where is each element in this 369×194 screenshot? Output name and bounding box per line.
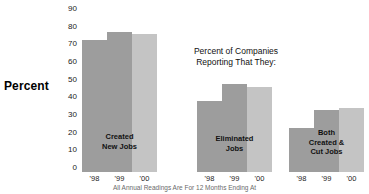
- x-tick-label: '99: [222, 174, 247, 183]
- x-axis-ticks: '98'99'00: [82, 174, 157, 183]
- x-tick-label: '98: [82, 174, 107, 183]
- chart-title-line-2: Reporting That They:: [175, 57, 297, 68]
- y-axis-title: Percent: [4, 79, 49, 93]
- x-tick-label: '00: [339, 174, 364, 183]
- x-tick-label: '98: [197, 174, 222, 183]
- bar-00-eliminated-jobs[interactable]: [247, 87, 272, 172]
- x-tick-label: '00: [132, 174, 157, 183]
- y-tick-label: 40: [55, 93, 77, 101]
- y-tick-label: 60: [55, 58, 77, 66]
- chart-title-line-1: Percent of Companies: [175, 46, 297, 57]
- bar-group: CreatedNew Jobs'98'99'00: [82, 13, 157, 172]
- bar-chart: Percent 9080706050403020100 CreatedNew J…: [0, 0, 369, 194]
- bar-group: EliminatedJobs'98'99'00: [197, 13, 272, 172]
- x-tick-label: '99: [314, 174, 339, 183]
- bar-99-created-new-jobs[interactable]: [107, 32, 132, 172]
- bar-00-both-created-cut-jobs[interactable]: [339, 108, 364, 172]
- bar-group: BothCreated &Cut Jobs'98'99'00: [289, 13, 364, 172]
- y-tick-label: 20: [55, 129, 77, 137]
- x-axis-ticks: '98'99'00: [289, 174, 364, 183]
- x-tick-label: '98: [289, 174, 314, 183]
- y-tick-label: 50: [55, 76, 77, 84]
- x-axis-ticks: '98'99'00: [197, 174, 272, 183]
- bar-set: [289, 13, 364, 172]
- chart-footnote: All Annual Readings Are For 12 Months En…: [0, 184, 369, 191]
- plot-area: CreatedNew Jobs'98'99'00EliminatedJobs'9…: [82, 9, 364, 172]
- bar-set: [197, 13, 272, 172]
- y-tick-label: 80: [55, 23, 77, 31]
- y-tick-label: 10: [55, 146, 77, 154]
- x-tick-label: '00: [247, 174, 272, 183]
- y-tick-label: 30: [55, 111, 77, 119]
- bar-99-both-created-cut-jobs[interactable]: [314, 110, 339, 172]
- bar-98-created-new-jobs[interactable]: [82, 40, 107, 173]
- y-tick-label: 0: [55, 164, 77, 172]
- y-tick-label: 90: [55, 5, 77, 13]
- bar-99-eliminated-jobs[interactable]: [222, 84, 247, 172]
- x-tick-label: '99: [107, 174, 132, 183]
- y-tick-label: 70: [55, 40, 77, 48]
- bar-98-eliminated-jobs[interactable]: [197, 101, 222, 172]
- bar-98-both-created-cut-jobs[interactable]: [289, 128, 314, 172]
- bar-set: [82, 13, 157, 172]
- chart-title: Percent of Companies Reporting That They…: [175, 46, 297, 68]
- bar-00-created-new-jobs[interactable]: [132, 34, 157, 172]
